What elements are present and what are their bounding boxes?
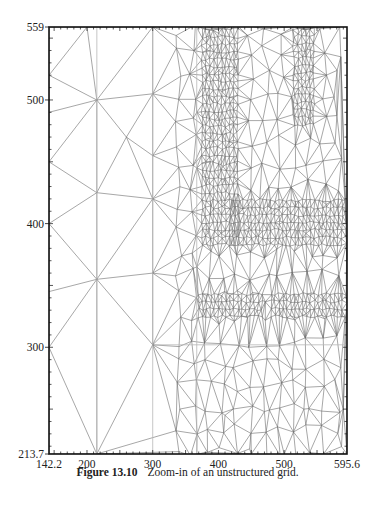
y-tick-label: 400	[27, 218, 45, 230]
y-tick-label: 559	[27, 21, 45, 33]
mesh-edges	[49, 23, 347, 458]
y-tick-label: 500	[27, 94, 45, 106]
figure-caption: Figure 13.10Zoom-in of an unstructured g…	[0, 466, 375, 478]
caption-text: Zoom-in of an unstructured grid.	[148, 466, 299, 478]
y-axis-tick-labels: 559500400300213.7	[18, 21, 44, 460]
mesh-layer	[49, 23, 347, 458]
mesh-figure: 142.2200300400500595.6 559500400300213.7	[0, 0, 375, 509]
y-tick-label: 213.7	[18, 448, 44, 460]
y-tick-label: 300	[27, 341, 45, 353]
figure-number: Figure 13.10	[76, 466, 137, 478]
